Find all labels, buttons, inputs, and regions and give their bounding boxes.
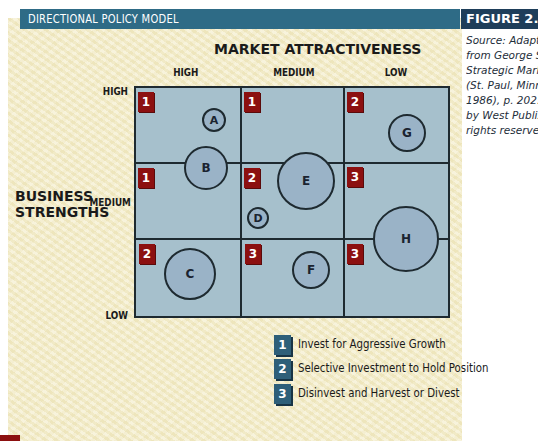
business-unit-bubble-h: H	[373, 206, 439, 272]
header-bar: DIRECTIONAL POLICY MODEL	[20, 9, 460, 29]
business-unit-bubble-d: D	[247, 207, 269, 229]
x-tick-low: LOW	[385, 66, 407, 79]
source-line: 1986), p. 202. C	[466, 93, 538, 108]
cell-badge-low-medium: 3	[245, 244, 261, 264]
corner-accent	[0, 435, 20, 441]
legend-text-1: Invest for Aggressive Growth	[298, 334, 446, 354]
legend-icon-1: 1	[274, 335, 291, 355]
x-axis-title: MARKET ATTRACTIVENESS	[214, 41, 421, 57]
cell-badge-high-medium: 1	[244, 92, 260, 112]
source-caption: Source: Adapted from George S. Strategic…	[466, 33, 538, 138]
source-line: from George S.	[466, 48, 538, 63]
business-unit-bubble-f: F	[292, 251, 330, 289]
x-tick-high: HIGH	[173, 66, 198, 79]
header-title: DIRECTIONAL POLICY MODEL	[28, 9, 179, 29]
legend-text-3: Disinvest and Harvest or Divest	[298, 383, 460, 403]
grid-divider-col-1	[240, 86, 242, 318]
grid-divider-col-2	[343, 86, 345, 318]
cell-badge-medium-medium: 2	[244, 168, 260, 188]
y-tick-low: LOW	[98, 309, 128, 322]
source-line: by West Publish	[466, 108, 538, 123]
business-unit-bubble-e: E	[277, 152, 335, 210]
legend-icon-3: 3	[274, 384, 291, 404]
cell-badge-medium-high: 1	[138, 168, 154, 188]
source-line: Strategic Mark	[466, 63, 538, 78]
cell-badge-low-high: 2	[139, 244, 155, 264]
cell-badge-medium-low: 3	[347, 167, 363, 187]
source-line: rights reserved.	[466, 123, 538, 138]
business-unit-bubble-g: G	[388, 114, 426, 152]
cell-badge-high-high: 1	[138, 92, 154, 112]
business-unit-bubble-c: C	[164, 248, 216, 300]
x-tick-medium: MEDIUM	[273, 66, 314, 79]
figure-label: FIGURE 2.6	[461, 9, 538, 29]
source-line: (St. Paul, Minn.:	[466, 78, 538, 93]
cell-badge-high-low: 2	[347, 92, 363, 112]
legend-icon-2: 2	[274, 359, 291, 379]
legend-text-2: Selective Investment to Hold Position	[298, 358, 489, 378]
business-unit-bubble-a: A	[202, 108, 226, 132]
y-tick-high: HIGH	[98, 85, 128, 98]
y-tick-medium: MEDIUM	[90, 196, 128, 209]
source-line: Source: Adapted	[466, 33, 538, 48]
cell-badge-low-low: 3	[347, 244, 363, 264]
business-unit-bubble-b: B	[184, 146, 228, 190]
